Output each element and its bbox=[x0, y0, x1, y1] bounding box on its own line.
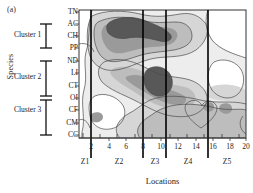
y-axis-ticks bbox=[75, 12, 79, 135]
zone-label-z2: Z2 bbox=[110, 157, 128, 166]
x-tick-16: 16 bbox=[206, 142, 220, 151]
x-tick-8: 8 bbox=[136, 142, 150, 151]
x-tick-12: 12 bbox=[171, 142, 185, 151]
x-tick-18: 18 bbox=[223, 142, 237, 151]
x-tick-10: 10 bbox=[154, 142, 168, 151]
figure-panel: (a) Species Locations TN AC CH PP ND LI … bbox=[0, 0, 253, 193]
zone-label-z5: Z5 bbox=[218, 157, 236, 166]
zone-label-z3: Z3 bbox=[146, 157, 164, 166]
x-tick-2: 2 bbox=[84, 142, 98, 151]
zone-label-z1: Z1 bbox=[76, 157, 94, 166]
x-tick-20: 20 bbox=[239, 142, 253, 151]
x-tick-6: 6 bbox=[119, 142, 133, 151]
x-tick-4: 4 bbox=[102, 142, 116, 151]
x-tick-14: 14 bbox=[189, 142, 203, 151]
contour-bands bbox=[79, 10, 246, 138]
zone-label-z4: Z4 bbox=[179, 157, 197, 166]
